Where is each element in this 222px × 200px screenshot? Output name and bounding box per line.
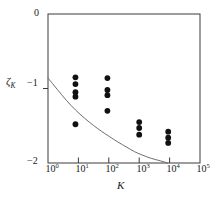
x-tick-mantissa: 10 [136,163,146,174]
data-point [136,119,142,125]
x-tick-mantissa: 10 [45,163,55,174]
x-tick-mantissa: 10 [196,163,206,174]
x-tick-exponent: 5 [206,162,209,169]
x-axis-label: K [117,180,124,191]
figure-container: 0 −1 −2 ζK 100 101 102 103 104 105 K [0,0,222,200]
data-point [73,121,79,127]
data-point [105,87,111,93]
data-point [165,140,171,146]
data-point [73,81,79,87]
data-point [165,129,171,135]
x-tick-exponent: 0 [55,162,58,169]
data-point [73,94,79,100]
x-axis-ticks [78,158,169,164]
x-tick-label-1e0: 100 [38,164,66,174]
y-tick-label-0: 0 [34,8,39,18]
x-tick-mantissa: 10 [75,163,85,174]
data-point [105,75,111,81]
x-tick-label-1e5: 105 [189,164,217,174]
x-tick-label-1e4: 104 [159,164,187,174]
x-tick-mantissa: 10 [105,163,115,174]
x-tick-exponent: 4 [176,162,179,169]
data-point [136,132,142,138]
x-tick-mantissa: 10 [166,163,176,174]
y-axis-label-subscript: K [10,81,15,90]
x-tick-label-1e2: 102 [98,164,126,174]
data-point [165,135,171,141]
data-point [73,74,79,80]
x-tick-exponent: 3 [146,162,149,169]
data-point [105,108,111,114]
data-point-group [73,74,172,145]
x-tick-label-1e1: 101 [68,164,96,174]
y-axis-label: ζK [6,76,15,87]
y-tick-label-minus2: −2 [27,156,38,166]
data-point [105,92,111,98]
data-point [136,125,142,131]
y-tick-label-minus1: −1 [27,78,38,88]
plot-frame [48,14,200,163]
x-tick-exponent: 2 [115,162,118,169]
x-tick-exponent: 1 [85,162,88,169]
x-tick-label-1e3: 103 [129,164,157,174]
